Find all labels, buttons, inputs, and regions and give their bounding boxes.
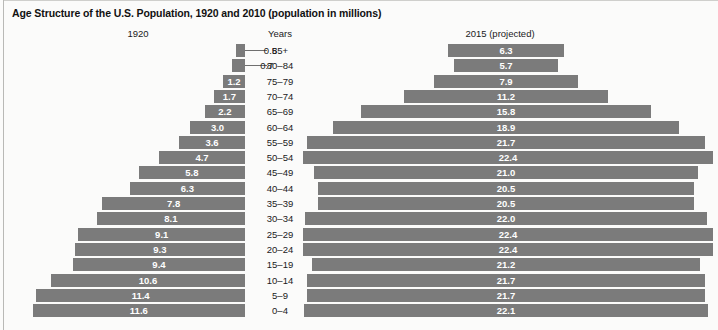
age-group-label: 75–79 bbox=[240, 75, 320, 88]
age-group-label: 70–74 bbox=[240, 90, 320, 103]
age-group-label: 40–44 bbox=[240, 182, 320, 195]
bar-value-1920: 5.8 bbox=[139, 166, 245, 179]
bar-value-2015: 22.4 bbox=[303, 243, 713, 256]
bar-value-1920: 11.4 bbox=[36, 289, 245, 302]
age-group-label: 15–19 bbox=[240, 258, 320, 271]
bar-value-1920: 9.4 bbox=[73, 258, 245, 271]
bar-value-1920: 4.7 bbox=[159, 151, 245, 164]
age-group-label: 60–64 bbox=[240, 121, 320, 134]
pyramid-row: 1.275–797.9 bbox=[0, 75, 718, 88]
bar-value-2015: 20.5 bbox=[318, 182, 693, 195]
bar-value-2015: 5.7 bbox=[454, 59, 558, 72]
bar-value-2015: 21.2 bbox=[312, 258, 700, 271]
bar-value-2015: 21.7 bbox=[307, 136, 704, 149]
bar-value-1920: 7.8 bbox=[102, 197, 245, 210]
bar-value-2015: 21.0 bbox=[314, 166, 698, 179]
bar-value-2015: 22.0 bbox=[305, 212, 708, 225]
bar-value-1920: 2.2 bbox=[205, 105, 245, 118]
pyramid-row: 11.45–921.7 bbox=[0, 289, 718, 302]
age-group-label: 45–49 bbox=[240, 166, 320, 179]
bar-value-2015: 22.4 bbox=[303, 228, 713, 241]
pyramid-row: 7.835–3920.5 bbox=[0, 197, 718, 210]
pyramid-row: 3.060–6418.9 bbox=[0, 121, 718, 134]
pyramid-row: 9.415–1921.2 bbox=[0, 258, 718, 271]
bar-value-2015: 7.9 bbox=[434, 75, 579, 88]
age-group-label: 65–69 bbox=[240, 105, 320, 118]
pyramid-row: 5.845–4921.0 bbox=[0, 166, 718, 179]
bar-value-2015: 6.3 bbox=[448, 44, 563, 57]
bar-value-1920: 10.6 bbox=[51, 274, 245, 287]
bar-value-1920: 3.0 bbox=[190, 121, 245, 134]
bar-value-1920: 8.1 bbox=[97, 212, 245, 225]
bar-value-2015: 20.5 bbox=[318, 197, 693, 210]
bar-value-2015: 21.7 bbox=[307, 289, 704, 302]
bar-value-1920: 11.6 bbox=[33, 304, 245, 317]
bar-value-1920: 9.3 bbox=[75, 243, 245, 256]
population-pyramid-chart: 0.585+6.30.780–845.71.275–797.91.770–741… bbox=[0, 0, 718, 330]
bar-value-2015: 21.7 bbox=[307, 274, 704, 287]
bar-value-1920: 9.1 bbox=[78, 228, 245, 241]
pyramid-row: 10.610–1421.7 bbox=[0, 274, 718, 287]
age-group-label: 85+ bbox=[240, 44, 320, 57]
bar-value-2015: 11.2 bbox=[404, 90, 609, 103]
pyramid-row: 8.130–3422.0 bbox=[0, 212, 718, 225]
pyramid-row: 4.750–5422.4 bbox=[0, 151, 718, 164]
bar-value-2015: 22.4 bbox=[303, 151, 713, 164]
bar-value-2015: 18.9 bbox=[333, 121, 679, 134]
age-group-label: 80–84 bbox=[240, 59, 320, 72]
pyramid-row: 9.320–2422.4 bbox=[0, 243, 718, 256]
age-group-label: 35–39 bbox=[240, 197, 320, 210]
pyramid-row: 2.265–6915.8 bbox=[0, 105, 718, 118]
pyramid-row: 3.655–5921.7 bbox=[0, 136, 718, 149]
pyramid-row: 9.125–2922.4 bbox=[0, 228, 718, 241]
pyramid-row: 11.60–422.1 bbox=[0, 304, 718, 317]
pyramid-row: 6.340–4420.5 bbox=[0, 182, 718, 195]
bar-value-1920: 3.6 bbox=[179, 136, 245, 149]
pyramid-row: 0.585+6.3 bbox=[0, 44, 718, 57]
bar-value-1920: 6.3 bbox=[130, 182, 245, 195]
pyramid-row: 0.780–845.7 bbox=[0, 59, 718, 72]
bar-value-2015: 15.8 bbox=[361, 105, 650, 118]
figure-canvas: Age Structure of the U.S. Population, 19… bbox=[0, 0, 718, 330]
bar-value-2015: 22.1 bbox=[304, 304, 708, 317]
pyramid-row: 1.770–7411.2 bbox=[0, 90, 718, 103]
